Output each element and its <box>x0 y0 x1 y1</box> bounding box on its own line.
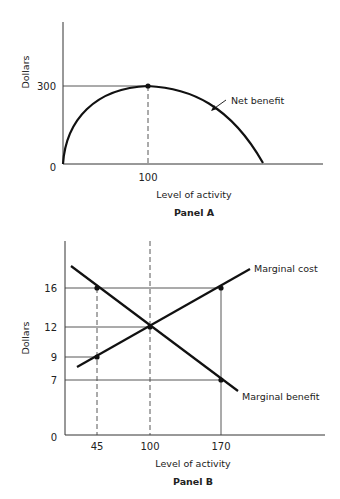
panel-b-x-tick-170: 170 <box>211 441 230 452</box>
marginal-benefit-label: Marginal benefit <box>242 391 320 402</box>
panel-b-title: Panel B <box>173 476 213 487</box>
panel-b-y-label: Dollars <box>20 321 31 354</box>
panel-b-y-tick-7: 7 <box>51 375 57 386</box>
marginal-cost-label: Marginal cost <box>254 263 318 274</box>
panel-a-x-label: Level of activity <box>156 189 232 200</box>
panel-a-y-tick-300: 300 <box>37 81 56 92</box>
figure: Net benefit 300 0 100 Level of activity … <box>0 0 340 499</box>
marginal-benefit-line <box>71 266 238 391</box>
point-mb-45 <box>94 285 99 290</box>
net-benefit-label: Net benefit <box>231 95 284 106</box>
panel-b-x-tick-45: 45 <box>91 441 104 452</box>
panel-a: Net benefit 300 0 100 Level of activity … <box>20 22 323 218</box>
panel-a-y-tick-0: 0 <box>50 162 56 173</box>
panel-b-y-tick-9: 9 <box>51 352 57 363</box>
panel-a-max-point <box>145 83 150 88</box>
panel-a-title: Panel A <box>174 207 215 218</box>
panel-b-x-label: Level of activity <box>155 458 231 469</box>
point-intersection-100 <box>147 324 152 329</box>
panel-b-y-tick-16: 16 <box>44 283 57 294</box>
panel-b-y-tick-12: 12 <box>44 322 57 333</box>
point-mc-45 <box>94 354 99 359</box>
panel-a-x-tick-100: 100 <box>138 172 157 183</box>
point-mc-170 <box>218 285 223 290</box>
marginal-cost-line <box>77 269 250 367</box>
panel-b: Marginal cost Marginal benefit 16 12 9 7… <box>20 241 325 487</box>
panel-b-x-tick-100: 100 <box>140 441 159 452</box>
panel-a-y-label: Dollars <box>20 55 31 88</box>
panel-b-y-tick-0: 0 <box>51 432 57 443</box>
point-mb-170 <box>218 377 223 382</box>
